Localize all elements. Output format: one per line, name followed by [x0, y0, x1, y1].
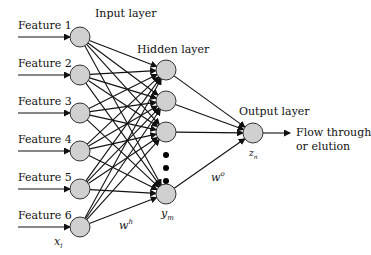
feature-label: Feature 6 — [18, 210, 72, 222]
input-node — [70, 65, 90, 85]
output-layer-title: Output layer — [239, 106, 310, 118]
input-node — [70, 217, 90, 237]
connection-edge — [176, 132, 243, 133]
input-node — [70, 27, 90, 47]
output-variable-label: zn — [249, 147, 258, 163]
ellipsis-dot — [163, 178, 169, 184]
connection-edge — [87, 108, 159, 182]
feature-label: Feature 2 — [18, 58, 72, 70]
hidden-variable-label: ym — [161, 208, 174, 224]
hidden-layer-title: Hidden layer — [137, 44, 209, 56]
ellipsis-dot — [163, 152, 169, 158]
connection-edge — [174, 76, 245, 127]
connection-edge — [90, 134, 156, 149]
hidden-node — [156, 60, 176, 80]
connection-edge — [175, 104, 243, 129]
feature-label: Feature 5 — [18, 172, 72, 184]
ellipsis-dot — [163, 165, 169, 171]
connection-edge — [87, 44, 160, 124]
input-layer-title: Input layer — [95, 8, 157, 20]
connection-edge — [89, 106, 158, 146]
input-node — [70, 141, 90, 161]
connection-edge — [90, 115, 156, 130]
connection-edge — [174, 139, 245, 189]
neural-network-diagram: Input layer Hidden layer Output layer Fe… — [0, 0, 371, 255]
feature-label: Feature 1 — [18, 20, 72, 32]
hidden-node — [156, 91, 176, 111]
output-node — [243, 123, 263, 143]
hidden-weight-label: wh — [119, 216, 133, 232]
input-node — [70, 103, 90, 123]
output-label-line1: Flow through — [296, 127, 371, 139]
hidden-node — [156, 122, 176, 142]
connection-edge — [87, 139, 160, 219]
input-variable-label: xi — [54, 236, 62, 252]
output-weight-label: wo — [211, 168, 225, 184]
output-label-line2: or elution — [296, 141, 350, 153]
connection-edge — [85, 79, 161, 218]
input-node — [70, 179, 90, 199]
feature-label: Feature 4 — [18, 134, 72, 146]
feature-label: Feature 3 — [18, 96, 72, 108]
hidden-node — [156, 184, 176, 204]
